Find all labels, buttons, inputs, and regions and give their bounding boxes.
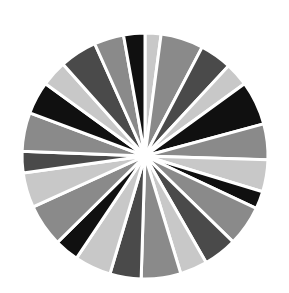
pie-chart-canvas <box>0 0 289 293</box>
pie-chart-figure <box>0 0 289 293</box>
pie-wedge-group <box>22 33 268 279</box>
